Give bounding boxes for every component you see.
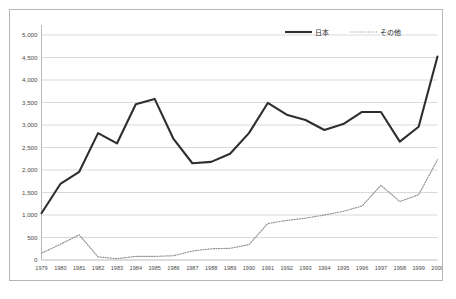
x-tick-label: 1997: [375, 265, 387, 271]
x-tick-label: 1981: [73, 265, 85, 271]
x-tick-label: 1983: [111, 265, 123, 271]
x-tick-label: 1998: [394, 265, 406, 271]
x-tick-label: 1986: [167, 265, 179, 271]
x-tick-label: 1990: [243, 265, 255, 271]
x-tick-label: 1979: [35, 265, 47, 271]
x-tick-label: 1988: [205, 265, 217, 271]
x-tick-label: 1984: [130, 265, 142, 271]
x-axis-tick-labels: 1979198019811982198319841985198619871988…: [35, 265, 442, 271]
x-tick-label: 1985: [148, 265, 160, 271]
y-tick-label: 0: [34, 256, 38, 263]
legend-label-other: その他: [380, 28, 401, 37]
x-tick-label: 2000: [431, 265, 442, 271]
x-tick-label: 1991: [262, 265, 274, 271]
y-tick-label: 1,000: [22, 211, 38, 218]
x-tick-label: 1995: [337, 265, 349, 271]
line-chart: 05001,0001,5002,0002,5003,0003,5004,0004…: [10, 10, 442, 280]
y-axis-tick-labels: 05001,0001,5002,0002,5003,0003,5004,0004…: [22, 31, 38, 263]
x-tick-label: 1989: [224, 265, 236, 271]
y-tick-label: 1,500: [22, 189, 38, 196]
series-line-other: [42, 160, 438, 259]
x-tick-label: 1993: [299, 265, 311, 271]
y-tick-label: 4,000: [22, 76, 38, 83]
x-tick-label: 1996: [356, 265, 368, 271]
x-tick-label: 1999: [412, 265, 424, 271]
y-tick-label: 500: [27, 234, 38, 241]
y-tick-label: 5,000: [22, 31, 38, 38]
y-tick-label: 2,000: [22, 166, 38, 173]
x-tick-label: 1994: [318, 265, 330, 271]
y-tick-label: 4,500: [22, 54, 38, 61]
gridlines-group: [42, 35, 438, 260]
series-group: [42, 57, 438, 259]
x-tick-label: 1982: [92, 265, 104, 271]
y-tick-label: 3,000: [22, 121, 38, 128]
y-tick-label: 3,500: [22, 99, 38, 106]
chart-frame-border: 05001,0001,5002,0002,5003,0003,5004,0004…: [9, 9, 443, 281]
x-tick-label: 1980: [54, 265, 66, 271]
x-tick-label: 1992: [280, 265, 292, 271]
y-tick-label: 2,500: [22, 144, 38, 151]
chart-figure: 05001,0001,5002,0002,5003,0003,5004,0004…: [0, 0, 456, 299]
x-tick-label: 1987: [186, 265, 198, 271]
legend-label-japan: 日本: [315, 28, 329, 37]
